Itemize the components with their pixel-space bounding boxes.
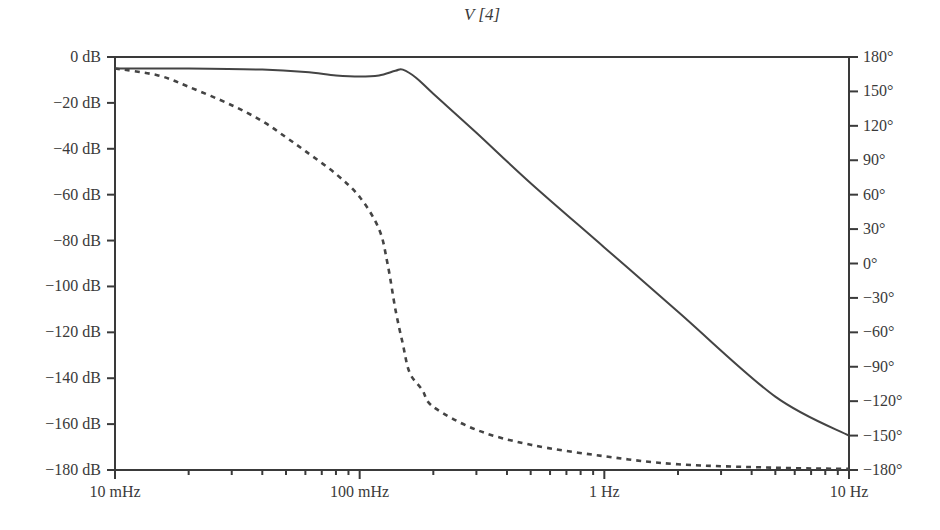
left-tick-label: −120 dB xyxy=(45,323,101,340)
x-tick-label: 10 Hz xyxy=(830,483,869,500)
phase-curve xyxy=(115,69,849,469)
right-tick-label: 150° xyxy=(863,82,893,99)
right-tick-label: 30° xyxy=(863,220,885,237)
x-tick-label: 10 mHz xyxy=(89,483,140,500)
right-tick-label: −60° xyxy=(863,323,894,340)
right-tick-label: −180° xyxy=(863,461,902,478)
left-tick-label: −40 dB xyxy=(53,140,101,157)
magnitude-curve xyxy=(115,68,849,435)
left-tick-label: −180 dB xyxy=(45,461,101,478)
x-tick-label: 1 Hz xyxy=(589,483,620,500)
right-tick-label: −90° xyxy=(863,358,894,375)
left-tick-label: −160 dB xyxy=(45,415,101,432)
right-tick-label: 0° xyxy=(863,255,877,272)
chart-title: V [4] xyxy=(464,5,500,24)
left-tick-label: −100 dB xyxy=(45,277,101,294)
right-tick-label: −120° xyxy=(863,392,902,409)
x-tick-label: 100 mHz xyxy=(330,483,389,500)
right-tick-label: 120° xyxy=(863,117,893,134)
right-axis-ticks: 180°150°120°90°60°30°0°−30°−60°−90°−120°… xyxy=(849,48,902,478)
left-tick-label: 0 dB xyxy=(70,48,101,65)
left-tick-label: −140 dB xyxy=(45,369,101,386)
right-tick-label: −150° xyxy=(863,427,902,444)
left-tick-label: −80 dB xyxy=(53,232,101,249)
left-axis-ticks: 0 dB−20 dB−40 dB−60 dB−80 dB−100 dB−120 … xyxy=(45,48,115,478)
right-tick-label: −30° xyxy=(863,289,894,306)
left-tick-label: −60 dB xyxy=(53,186,101,203)
right-tick-label: 60° xyxy=(863,186,885,203)
bode-plot: V [4] 0 dB−20 dB−40 dB−60 dB−80 dB−100 d… xyxy=(0,0,940,530)
right-tick-label: 90° xyxy=(863,151,885,168)
x-axis-ticks: 10 mHz100 mHz1 Hz10 Hz xyxy=(89,470,868,500)
left-tick-label: −20 dB xyxy=(53,94,101,111)
right-tick-label: 180° xyxy=(863,48,893,65)
